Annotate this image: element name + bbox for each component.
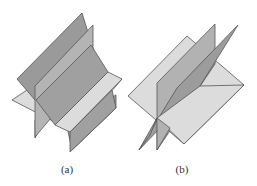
caption-a: (a) (52, 163, 82, 175)
diagram-canvas (0, 0, 257, 186)
panel-b-figure (128, 24, 244, 150)
panel-a-figure (12, 13, 122, 152)
caption-b: (b) (167, 163, 197, 175)
